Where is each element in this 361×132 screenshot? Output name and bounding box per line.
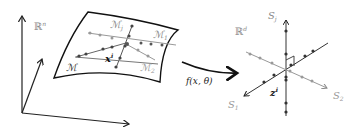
embedding-axes bbox=[244, 20, 328, 116]
label-m: ℳ bbox=[66, 62, 78, 73]
space-label-rd: ℝd bbox=[235, 25, 247, 37]
manifold-mapping-diagram: ℝn ℳj ℳ1 ℳ2 bbox=[0, 0, 361, 132]
label-s1: S1 bbox=[228, 99, 239, 111]
mapping-arrow bbox=[182, 62, 237, 73]
space-label-rn: ℝn bbox=[34, 20, 46, 32]
label-zi: zi bbox=[269, 86, 279, 98]
label-s2: S2 bbox=[333, 90, 344, 102]
mapping-label: f(x, θ) bbox=[185, 76, 213, 86]
label-sj: Sj bbox=[268, 10, 277, 23]
